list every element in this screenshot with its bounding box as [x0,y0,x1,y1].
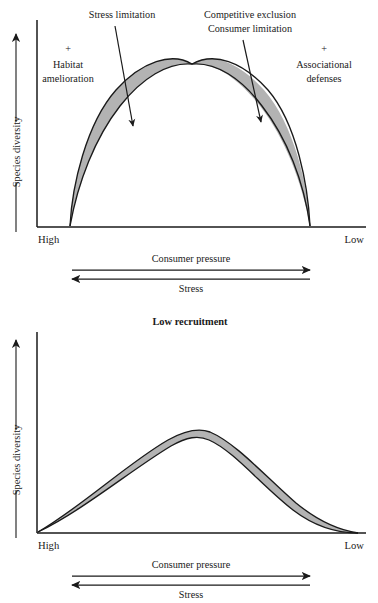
bottom-panel-shaded-area [38,430,358,533]
annotation-habitat-plus: + [65,43,71,54]
ecology-diversity-figure: Species diversity Stress limitation + Ha… [0,0,378,603]
bottom-panel-stress-label: Stress [179,589,203,600]
top-panel-y-axis-label: Species diversity [11,116,22,188]
annotation-competitive-exclusion-line2: Consumer limitation [208,23,292,34]
bottom-panel-x-right-label: Low [345,540,365,551]
top-panel-x-left-label: High [38,234,60,245]
top-panel: Species diversity Stress limitation + Ha… [11,9,367,294]
annotation-stress-limitation: Stress limitation [89,9,156,20]
top-panel-y-axis-group: Species diversity [11,34,22,232]
annotation-associational-line1: Associational [296,59,352,70]
bottom-panel-title: Low recruitment [152,316,228,327]
shaded-area-right [192,59,310,226]
top-panel-consumer-pressure-label: Consumer pressure [152,253,231,264]
top-panel-curve-inner [70,59,310,226]
top-panel-stress-label: Stress [179,283,203,294]
bottom-panel-consumer-pressure-label: Consumer pressure [152,559,231,570]
annotation-habitat-line2: amelioration [42,73,94,84]
bottom-panel-y-axis-group: Species diversity [11,340,22,538]
figure-root: Species diversity Stress limitation + Ha… [0,0,378,603]
bottom-panel-y-axis-label: Species diversity [11,424,22,496]
bottom-panel: Low recruitment Species diversity High L… [11,316,367,600]
top-panel-x-right-label: Low [345,234,365,245]
annotation-habitat-line1: Habitat [53,59,83,70]
annotation-associational-plus: + [321,43,327,54]
bottom-panel-x-left-label: High [38,540,60,551]
annotation-competitive-exclusion-line1: Competitive exclusion [204,9,296,20]
annotation-associational-line2: defenses [306,73,341,84]
top-panel-curve-outer [70,64,310,226]
